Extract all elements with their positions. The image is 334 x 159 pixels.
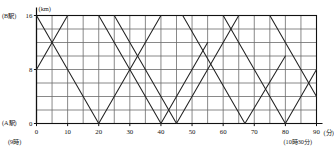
x-axis-unit-label: (分) [324, 130, 334, 136]
y-axis-unit-label: (km) [39, 6, 51, 12]
x-tick-label: 0 [35, 128, 39, 135]
x-axis-end-time-label: (10時30分) [284, 139, 313, 145]
x-tick-label: 20 [95, 128, 102, 135]
x-tick-label: 40 [158, 128, 165, 135]
x-tick-label: 80 [282, 128, 289, 135]
y-tick-label: 16 [26, 12, 33, 19]
y-tick-label: 8 [29, 66, 33, 73]
y-tick-label: 0 [29, 120, 33, 127]
y-axis-station-a-label: (A駅) [2, 120, 17, 126]
x-tick-label: 60 [220, 128, 227, 135]
x-tick-label: 10 [64, 128, 71, 135]
x-tick-label: 50 [189, 128, 196, 135]
x-tick-label: 70 [251, 128, 258, 135]
x-axis-start-time-label: (9時) [8, 139, 21, 145]
x-tick-label: 30 [126, 128, 133, 135]
y-axis-station-b-label: (B駅) [2, 13, 16, 19]
x-tick-label: 90 [313, 128, 320, 135]
